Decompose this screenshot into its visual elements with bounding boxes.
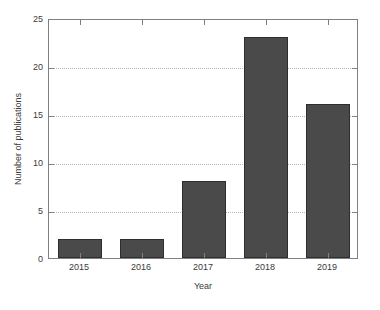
x-tick-2016	[142, 253, 143, 258]
y-tick-10	[49, 164, 54, 165]
x-tick-top-2016	[142, 20, 143, 25]
y-tick-right-20	[352, 68, 357, 69]
x-axis-tick-labels: 20152016201720182019	[48, 262, 358, 276]
y-tick-15	[49, 116, 54, 117]
y-tick-right-10	[352, 164, 357, 165]
y-tick-20	[49, 68, 54, 69]
bar-2017[interactable]	[182, 181, 227, 258]
y-tick-label-0: 0	[38, 254, 43, 264]
bar-chart-figure: 0510152025 Number of publications 201520…	[0, 0, 380, 310]
x-tick-2015	[80, 253, 81, 258]
x-axis-title: Year	[48, 281, 358, 292]
y-tick-label-20: 20	[33, 62, 43, 72]
bar-2019[interactable]	[306, 104, 351, 258]
x-tick-top-2019	[328, 20, 329, 25]
x-tick-2018	[266, 253, 267, 258]
y-axis-title: Number of publications	[12, 19, 24, 259]
x-tick-top-2017	[204, 20, 205, 25]
plot-inner	[49, 20, 357, 258]
plot-area	[48, 19, 358, 259]
y-tick-label-25: 25	[33, 14, 43, 24]
y-tick-right-15	[352, 116, 357, 117]
x-tick-label-2015: 2015	[69, 262, 89, 273]
x-tick-2017	[204, 253, 205, 258]
y-tick-label-10: 10	[33, 158, 43, 168]
x-tick-top-2015	[80, 20, 81, 25]
x-tick-label-2017: 2017	[193, 262, 213, 273]
y-tick-5	[49, 212, 54, 213]
gridline-y-20	[49, 68, 357, 69]
x-tick-label-2016: 2016	[131, 262, 151, 273]
y-tick-right-5	[352, 212, 357, 213]
bar-2018[interactable]	[244, 37, 289, 258]
x-tick-label-2019: 2019	[317, 262, 337, 273]
x-tick-label-2018: 2018	[255, 262, 275, 273]
y-tick-label-15: 15	[33, 110, 43, 120]
x-tick-top-2018	[266, 20, 267, 25]
x-tick-2019	[328, 253, 329, 258]
y-tick-label-5: 5	[38, 206, 43, 216]
